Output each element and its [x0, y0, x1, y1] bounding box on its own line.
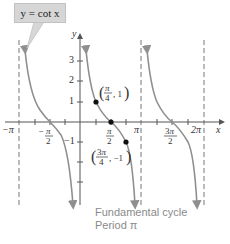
callout-pointer [27, 22, 44, 48]
tick-label-pi-over-2: π [107, 126, 112, 136]
y-tick-neg1: −1 [64, 135, 75, 146]
svg-text:, −1: , −1 [109, 153, 123, 163]
x-axis-label: x [216, 124, 220, 135]
point-pi-over-4 [93, 99, 98, 104]
svg-text:4: 4 [99, 157, 104, 167]
svg-text:): ) [126, 148, 131, 166]
point-label-1: ( [99, 84, 104, 102]
svg-text:): ) [124, 84, 129, 102]
caption-fundamental-cycle: Fundamental cycle [95, 206, 187, 219]
svg-text:π: π [105, 83, 110, 93]
point-label-2: ( [91, 148, 96, 166]
tick-label-pi: π [134, 124, 139, 135]
y-tick-2: 2 [69, 74, 74, 85]
point-3pi-over-4 [123, 139, 128, 144]
callout-label: y = cot x [21, 7, 60, 19]
svg-text:3π: 3π [97, 147, 107, 157]
tick-label-neg-pi: −π [2, 124, 14, 135]
svg-text:2: 2 [46, 136, 51, 146]
y-axis-label: y [72, 28, 76, 39]
tick-label-3pi-over-2: 3π [165, 126, 175, 136]
y-tick-1: 1 [69, 95, 74, 106]
svg-text:2: 2 [107, 136, 112, 146]
svg-text:π: π [46, 126, 51, 136]
point-pi-over-2 [108, 119, 113, 124]
function-callout: y = cot x [14, 3, 66, 23]
svg-text:4: 4 [105, 93, 110, 103]
caption-period: Period π [95, 219, 137, 232]
svg-text:2: 2 [168, 136, 173, 146]
svg-text:, 1: , 1 [113, 89, 122, 99]
tick-label-neg-pi-over-2: − [38, 126, 44, 136]
y-tick-3: 3 [69, 54, 74, 65]
tick-label-2pi: 2π [191, 124, 201, 135]
